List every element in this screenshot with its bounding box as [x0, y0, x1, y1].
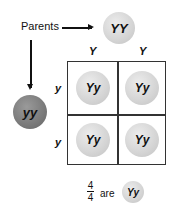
cell-genotype: Yy	[135, 133, 150, 147]
parent-left-genotype: yy	[23, 105, 37, 120]
cell-ball-r1c2: Yy	[125, 71, 159, 105]
row-allele-2: y	[55, 136, 61, 148]
parents-label: Parents	[21, 20, 59, 32]
fraction-numerator: 4	[87, 180, 94, 191]
column-allele-1: Y	[89, 45, 96, 57]
result-genotype: Yy	[127, 187, 139, 198]
parent-top-ball: YY	[103, 12, 135, 44]
cell-ball-r1c1: Yy	[76, 71, 110, 105]
row-allele-1: y	[55, 82, 61, 94]
grid-divider-vertical	[117, 61, 119, 165]
column-allele-2: Y	[139, 45, 146, 57]
grid-divider-horizontal	[67, 114, 166, 116]
parent-top-genotype: YY	[110, 21, 127, 36]
parent-left-ball: yy	[13, 95, 47, 129]
arrow-down-icon	[30, 40, 32, 88]
cell-ball-r2c2: Yy	[125, 123, 159, 157]
cell-genotype: Yy	[86, 81, 101, 95]
cell-genotype: Yy	[86, 133, 101, 147]
result-fraction: 4 4	[87, 180, 94, 203]
result-ball: Yy	[122, 181, 144, 203]
fraction-denominator: 4	[87, 192, 94, 203]
cell-ball-r2c1: Yy	[76, 123, 110, 157]
cell-genotype: Yy	[135, 81, 150, 95]
result-word: are	[100, 188, 114, 199]
arrow-right-icon	[62, 27, 92, 29]
